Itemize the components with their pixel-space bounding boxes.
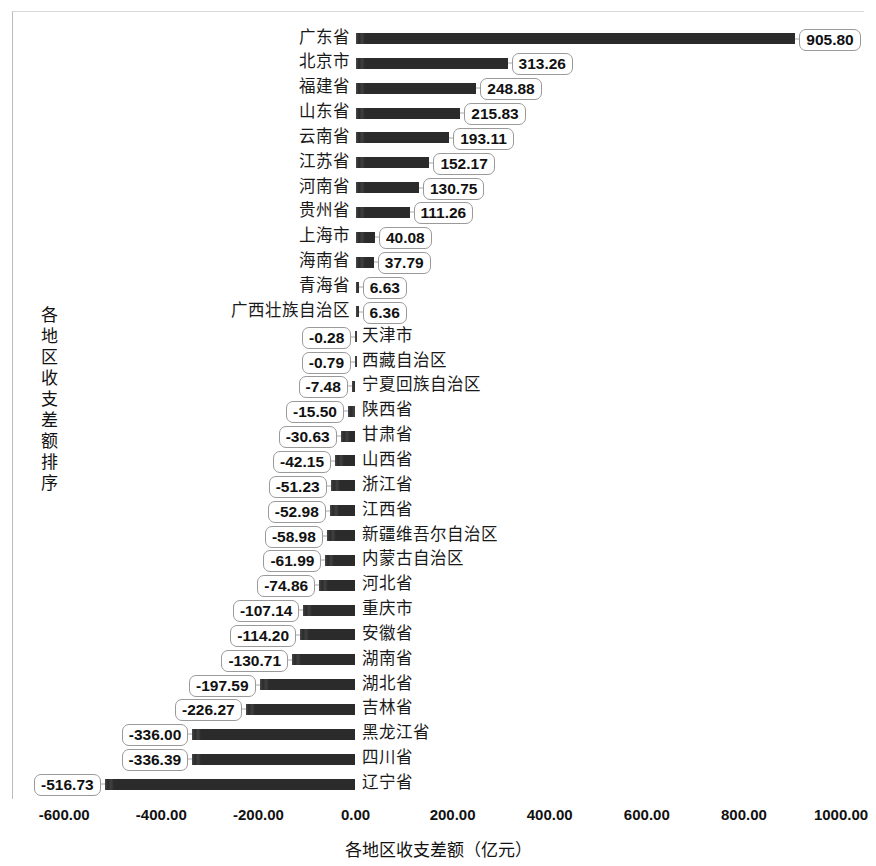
x-tick-label: 200.00 (430, 806, 476, 823)
bar (105, 779, 356, 790)
x-tick-label: 1000.00 (814, 806, 868, 823)
category-label: 天津市 (362, 327, 413, 345)
callout-leader-line (410, 205, 414, 219)
category-label: 湖南省 (362, 650, 413, 668)
value-callout: 193.11 (453, 128, 514, 150)
bar (356, 232, 375, 243)
bar (319, 580, 355, 591)
value-callout: -336.00 (122, 724, 189, 746)
bar (356, 282, 359, 293)
category-label: 北京市 (299, 53, 350, 71)
bar (335, 455, 355, 466)
value-callout: -197.59 (189, 675, 256, 697)
x-tick-label: -400.00 (136, 806, 187, 823)
category-label: 山西省 (362, 451, 413, 469)
category-label: 青海省 (299, 277, 350, 295)
bar (352, 381, 356, 392)
value-callout: -107.14 (233, 600, 300, 622)
category-label: 广东省 (299, 29, 350, 47)
category-label: 贵州省 (299, 202, 350, 220)
category-label: 江苏省 (299, 153, 350, 171)
value-callout: -30.63 (279, 426, 337, 448)
bar (327, 530, 356, 541)
value-callout: -52.98 (268, 501, 326, 523)
category-label: 甘肃省 (362, 426, 413, 444)
category-label: 上海市 (299, 227, 350, 245)
category-label: 内蒙古自治区 (362, 550, 464, 568)
category-label: 广西壮族自治区 (231, 302, 350, 320)
x-tick-label: 400.00 (527, 806, 573, 823)
bar (356, 207, 410, 218)
bar (192, 754, 355, 765)
value-callout: 6.63 (363, 277, 407, 299)
bar (356, 132, 450, 143)
value-callout: -114.20 (230, 625, 296, 647)
value-callout: -336.39 (122, 749, 189, 771)
callout-leader-line (508, 56, 512, 70)
category-label: 山东省 (299, 103, 350, 121)
bar (356, 182, 419, 193)
category-label: 安徽省 (362, 625, 413, 643)
x-tick-label: 0.00 (341, 806, 370, 823)
value-callout: -15.50 (286, 401, 344, 423)
category-label: 辽宁省 (362, 774, 413, 792)
bar (192, 729, 355, 740)
value-callout: 6.36 (363, 302, 407, 324)
x-tick-label: 600.00 (624, 806, 670, 823)
bar (300, 629, 355, 640)
category-label: 四川省 (362, 749, 413, 767)
value-callout: -74.86 (257, 575, 315, 597)
category-label: 河北省 (362, 575, 413, 593)
x-axis-title: 各地区收支差额（亿元） (0, 836, 876, 861)
value-callout: 248.88 (480, 78, 541, 100)
value-callout: -42.15 (273, 451, 331, 473)
bar (348, 406, 356, 417)
value-callout: 215.83 (464, 103, 525, 125)
chart-root: 各地区收支差额排序 广东省905.80北京市313.26福建省248.88山东省… (0, 0, 876, 866)
x-tick-label: -200.00 (233, 806, 284, 823)
category-label: 宁夏回族自治区 (362, 376, 481, 394)
bar (331, 480, 356, 491)
callout-leader-line (359, 305, 363, 319)
value-callout: -130.71 (221, 650, 288, 672)
plot-area: 广东省905.80北京市313.26福建省248.88山东省215.83云南省1… (0, 0, 876, 866)
value-callout: 130.75 (423, 178, 484, 200)
bar (246, 704, 356, 715)
bar (356, 108, 461, 119)
bar (355, 356, 357, 367)
value-callout: -226.27 (175, 699, 242, 721)
x-tick-label: -600.00 (39, 806, 90, 823)
bar (292, 654, 355, 665)
category-label: 黑龙江省 (362, 724, 430, 742)
value-callout: -516.73 (34, 774, 101, 796)
value-callout: 37.79 (378, 252, 431, 274)
value-callout: 905.80 (799, 29, 860, 51)
category-label: 陕西省 (362, 401, 413, 419)
value-callout: -58.98 (265, 526, 323, 548)
value-callout: -7.48 (299, 376, 348, 398)
bar (341, 431, 356, 442)
bar (330, 505, 356, 516)
category-label: 新疆维吾尔自治区 (362, 526, 498, 544)
bar (356, 33, 796, 44)
value-callout: 40.08 (379, 227, 432, 249)
bar (356, 83, 477, 94)
x-tick-label: 800.00 (721, 806, 767, 823)
value-callout: -0.79 (302, 352, 351, 374)
bar (356, 157, 430, 168)
bar (356, 58, 508, 69)
bar (356, 257, 374, 268)
category-label: 湖北省 (362, 675, 413, 693)
bar (303, 605, 355, 616)
value-callout: -0.28 (302, 327, 351, 349)
category-label: 河南省 (299, 178, 350, 196)
category-label: 江西省 (362, 501, 413, 519)
category-label: 福建省 (299, 78, 350, 96)
value-callout: -51.23 (269, 476, 327, 498)
value-callout: 313.26 (512, 53, 573, 75)
category-label: 云南省 (299, 128, 350, 146)
category-label: 重庆市 (362, 600, 413, 618)
category-label: 西藏自治区 (362, 352, 447, 370)
bar (325, 555, 355, 566)
bar (260, 679, 356, 690)
